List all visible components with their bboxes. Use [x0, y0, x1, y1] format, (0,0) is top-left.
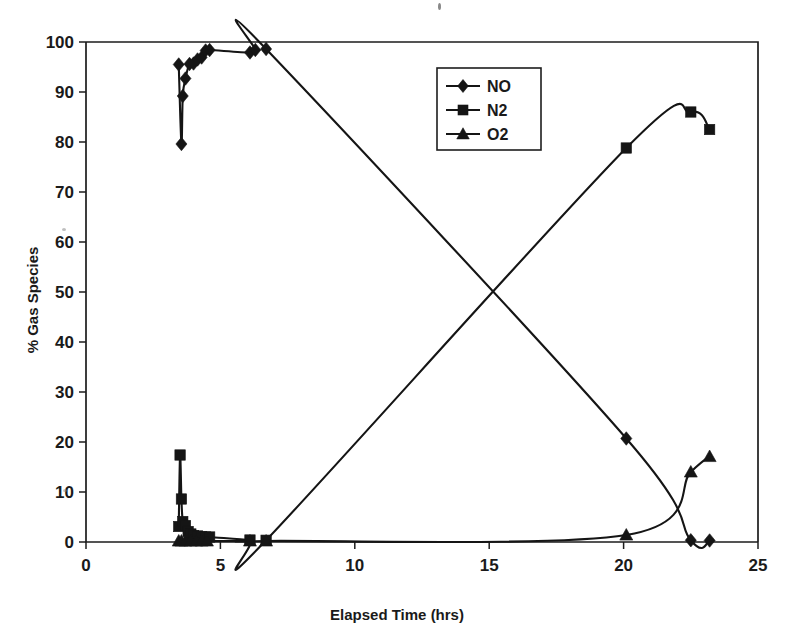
data-point-NO-1 [176, 137, 187, 151]
legend-label-NO: NO [487, 78, 511, 95]
y-tick-label-60: 60 [55, 233, 74, 252]
y-tick-label-30: 30 [55, 383, 74, 402]
y-tick-label-0: 0 [65, 533, 74, 552]
y-tick-label-20: 20 [55, 433, 74, 452]
y-tick-label-70: 70 [55, 183, 74, 202]
x-tick-label-5: 5 [216, 556, 225, 575]
series-N2 [174, 104, 715, 570]
gas-species-line-chart: 0510152025 0102030405060708090100 NON2O2… [0, 0, 794, 643]
data-point-NO-0 [173, 58, 184, 72]
series-line-O2 [179, 457, 710, 543]
data-point-N2-1 [175, 450, 185, 460]
x-axis-title: Elapsed Time (hrs) [330, 606, 464, 623]
legend-marker-square-icon [458, 105, 468, 115]
y-axis-title: % Gas Species [24, 247, 41, 354]
plot-frame [86, 42, 758, 542]
chart-legend: NON2O2 [437, 68, 541, 150]
y-tick-label-100: 100 [46, 33, 74, 52]
x-tick-label-0: 0 [81, 556, 90, 575]
data-point-N2-14 [621, 143, 631, 153]
x-tick-label-20: 20 [614, 556, 633, 575]
scan-artifact-speck-3 [63, 489, 67, 492]
scan-artifact-speck [438, 3, 441, 10]
data-point-N2-15 [686, 107, 696, 117]
data-point-N2-2 [176, 494, 186, 504]
legend-label-O2: O2 [487, 126, 508, 143]
x-tick-label-25: 25 [749, 556, 768, 575]
series-O2 [172, 450, 716, 546]
x-axis-tick-labels: 0510152025 [81, 556, 767, 575]
data-point-O2-11 [703, 450, 716, 462]
series-line-N2 [179, 104, 710, 570]
scan-artifact-speck-2 [62, 228, 66, 231]
y-tick-label-80: 80 [55, 133, 74, 152]
y-axis-ticks [79, 42, 86, 542]
chart-figure: 0510152025 0102030405060708090100 NON2O2… [0, 0, 794, 643]
data-point-NO-3 [180, 72, 191, 86]
x-tick-label-10: 10 [345, 556, 364, 575]
x-tick-label-15: 15 [480, 556, 499, 575]
data-point-N2-16 [704, 124, 714, 134]
y-tick-label-40: 40 [55, 333, 74, 352]
y-tick-label-90: 90 [55, 83, 74, 102]
legend-label-N2: N2 [487, 102, 508, 119]
y-axis-tick-labels: 0102030405060708090100 [46, 33, 74, 552]
y-tick-label-10: 10 [55, 483, 74, 502]
y-tick-label-50: 50 [55, 283, 74, 302]
